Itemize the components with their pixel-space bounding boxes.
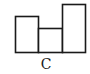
figure-label: C [0, 57, 90, 72]
left-box [16, 17, 39, 53]
diagram-figure-c: C [0, 0, 90, 74]
right-box [63, 5, 86, 53]
middle-box [39, 29, 63, 53]
